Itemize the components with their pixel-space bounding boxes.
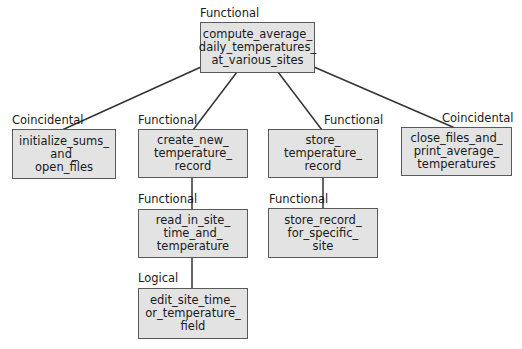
module-initialize-sums-and-open-files: initialize_sums_ and_ open_files	[12, 129, 116, 179]
cohesion-label-readin: Functional	[138, 193, 197, 206]
module-text-line: store_record_	[284, 214, 361, 227]
module-compute-average-daily-temperatures: compute_average_ daily_temperatures_ at_…	[200, 22, 315, 73]
module-store-temperature-record: store_ temperature_ record	[268, 129, 378, 178]
module-text-line: initialize_sums_	[19, 135, 109, 148]
cohesion-label-init: Coincidental	[12, 114, 83, 127]
cohesion-label-edit: Logical	[138, 272, 178, 285]
structure-chart: Functional compute_average_ daily_temper…	[0, 0, 522, 349]
module-text-line: temperatures	[410, 158, 502, 171]
module-text-line: field	[145, 320, 241, 333]
cohesion-label-storerec: Functional	[269, 193, 328, 206]
module-read-in-site-time-and-temperature: read_in_site_ time_and_ temperature	[138, 209, 248, 258]
module-text-line: and_	[19, 148, 109, 161]
module-text-line: record	[284, 160, 362, 173]
edge-root-store	[278, 72, 322, 130]
cohesion-label-store: Functional	[324, 114, 383, 127]
module-create-new-temperature-record: create_new_ temperature_ record	[138, 129, 248, 178]
module-edit-site-time-or-temperature-field: edit_site_time_ or_temperature_ field	[138, 288, 248, 339]
edge-root-create	[193, 72, 237, 130]
module-close-files-and-print-average-temperatures: close_files_and_ print_average_ temperat…	[401, 127, 512, 176]
module-text-line: at_various_sites	[199, 54, 316, 67]
module-text-line: open_files	[19, 161, 109, 174]
module-text-line: for_specific_	[284, 227, 361, 240]
cohesion-label-close: Coincidental	[442, 112, 513, 125]
module-store-record-for-specific-site: store_record_ for_specific_ site	[268, 208, 378, 258]
module-text-line: temperature	[156, 240, 230, 253]
cohesion-label-create: Functional	[138, 114, 197, 127]
module-text-line: record	[154, 160, 232, 173]
cohesion-label-root: Functional	[200, 7, 259, 20]
module-text-line: site	[284, 240, 361, 253]
